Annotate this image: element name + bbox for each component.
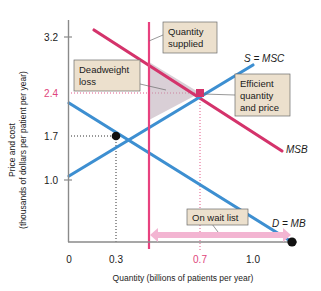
quantity-supplied-annotation: Quantity supplied [149, 22, 217, 53]
supply-curve-label: S = MSC [244, 53, 285, 64]
y-tick-label-1-0: 1.0 [44, 175, 58, 186]
y-tick-label-1-7: 1.7 [44, 131, 58, 142]
on-wait-list-arrow [150, 228, 291, 242]
msb-curve-label: MSB [286, 144, 308, 155]
deadweight-loss-label-line2: loss [79, 76, 96, 87]
on-wait-list-label: On wait list [192, 212, 239, 223]
quantity-supplied-label-line2: supplied [168, 38, 203, 49]
efficient-quantity-label-line1: Efficient [240, 78, 274, 89]
y-axis-title-line1: Price and cost [7, 122, 17, 176]
efficient-quantity-label-line2: quantity [240, 90, 274, 101]
x-tick-label-0-3: 0.3 [109, 254, 123, 265]
x-tick-label-1-0: 1.0 [246, 254, 260, 265]
efficient-quantity-label-line3: and price [240, 102, 279, 113]
y-tick-label-2-4: 2.4 [44, 88, 58, 99]
demand-endpoint-dot [287, 237, 296, 246]
x-axis-title: Quantity (billions of patients per year) [113, 273, 254, 283]
on-wait-list-annotation: On wait list [187, 209, 248, 232]
y-axis-title-line2: (thousands of dollars per patient per ye… [18, 71, 28, 229]
actual-quantity-point [112, 132, 121, 141]
x-tick-label-0-7: 0.7 [193, 254, 207, 265]
efficient-point-marker [196, 89, 204, 97]
demand-curve-label: D = MB [272, 218, 306, 229]
x-tick-label-0: 0 [66, 254, 72, 265]
demand-curve [69, 103, 292, 242]
deadweight-loss-label-line1: Deadweight [79, 64, 130, 75]
quantity-supplied-label-line1: Quantity [168, 26, 204, 37]
market-for-healthcare-chart: Price and cost (thousands of dollars per… [0, 0, 321, 291]
y-tick-label-3-2: 3.2 [44, 32, 58, 43]
